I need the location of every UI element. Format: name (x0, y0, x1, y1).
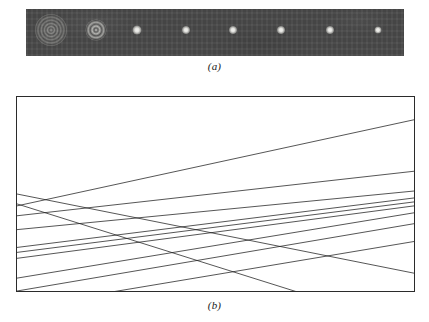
film-grain-texture (26, 9, 404, 56)
point-spread-spot-6 (277, 26, 285, 34)
ray-line-ray-3 (17, 191, 414, 230)
point-spread-spot-3 (133, 26, 142, 35)
panel-b-caption: (b) (0, 299, 429, 311)
ray-line-ray-11 (17, 204, 414, 291)
ray-lines (17, 120, 414, 291)
ray-line-ray-5 (17, 202, 414, 252)
point-spread-spot-1 (35, 14, 67, 46)
point-spread-spot-8 (375, 27, 382, 34)
figure-spherical-aberration: (a) (b) (0, 0, 429, 322)
point-spread-spot-5 (229, 26, 237, 34)
point-spread-spot-4 (182, 26, 190, 34)
panel-a-photographic-strip (26, 9, 404, 56)
ray-line-ray-6 (17, 206, 414, 258)
point-spread-spot-7 (326, 26, 334, 34)
ray-line-ray-1 (17, 120, 414, 206)
film-strip (26, 9, 404, 56)
ray-diagram-border (16, 96, 415, 292)
panel-b-ray-diagram (16, 96, 415, 292)
panel-a-caption: (a) (0, 60, 429, 72)
ray-trace-svg (17, 97, 414, 291)
ray-line-ray-2 (17, 171, 414, 216)
point-spread-spot-2 (86, 20, 107, 41)
